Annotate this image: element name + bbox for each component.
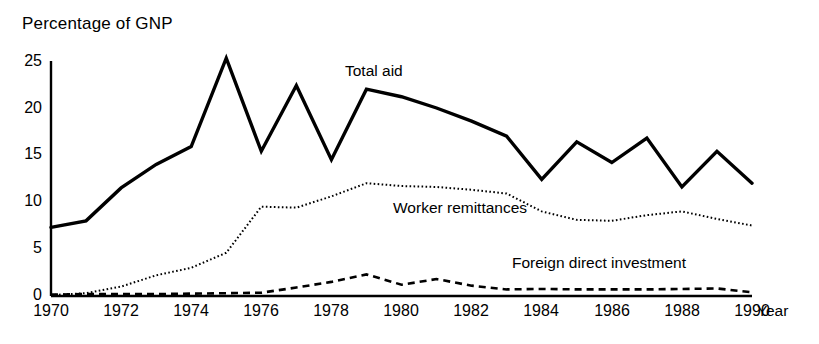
x-tick-label: 1986 bbox=[580, 302, 644, 320]
x-tick-label: 1984 bbox=[509, 302, 573, 320]
x-tick-label: 1980 bbox=[369, 302, 433, 320]
x-tick-label: 1976 bbox=[229, 302, 293, 320]
series-line-foreign-direct-investment bbox=[51, 274, 752, 294]
x-tick-label: 1978 bbox=[299, 302, 363, 320]
x-tick-label: 1972 bbox=[89, 302, 153, 320]
x-tick-label: 1988 bbox=[650, 302, 714, 320]
y-tick-label: 15 bbox=[8, 145, 42, 163]
y-tick-label: 10 bbox=[8, 192, 42, 210]
chart-container: Percentage of GNP 25 20 15 10 5 0 1970 1… bbox=[0, 0, 819, 344]
chart-plot-area bbox=[0, 0, 819, 344]
x-tick-label: 1974 bbox=[159, 302, 223, 320]
series-label-worker-remittances: Worker remittances bbox=[393, 199, 527, 217]
x-tick-label: 1982 bbox=[439, 302, 503, 320]
series-label-foreign-direct-investment: Foreign direct investment bbox=[512, 254, 686, 272]
y-tick-label: 5 bbox=[8, 239, 42, 257]
series-label-total-aid: Total aid bbox=[345, 62, 403, 80]
x-tick-label: 1970 bbox=[19, 302, 83, 320]
y-tick-label: 25 bbox=[8, 52, 42, 70]
x-axis-title: Year bbox=[757, 302, 788, 320]
y-tick-label: 20 bbox=[8, 99, 42, 117]
